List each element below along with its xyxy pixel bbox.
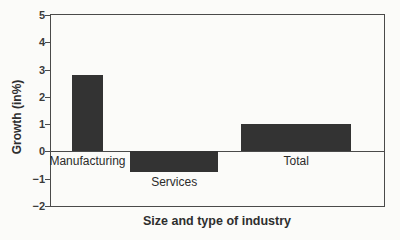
plot-area: 543210−1−2ManufacturingServicesTotal — [50, 14, 385, 207]
y-tick-label: 1 — [21, 118, 45, 130]
y-tick-mark — [45, 151, 51, 152]
bar-label-total: Total — [284, 155, 309, 168]
bar-label-services: Services — [151, 176, 197, 189]
bar-label-manufacturing: Manufacturing — [49, 155, 125, 168]
y-tick-label: −2 — [21, 200, 45, 212]
y-tick-label: 3 — [21, 64, 45, 76]
bar-services — [130, 151, 219, 171]
y-tick-mark — [45, 179, 51, 180]
y-tick-label: 4 — [21, 36, 45, 48]
bar-total — [241, 124, 351, 151]
y-tick-label: 2 — [21, 91, 45, 103]
y-tick-mark — [45, 15, 51, 16]
y-tick-mark — [45, 42, 51, 43]
y-tick-mark — [45, 70, 51, 71]
y-tick-mark — [45, 97, 51, 98]
x-axis-title: Size and type of industry — [50, 214, 384, 228]
bar-manufacturing — [72, 75, 103, 151]
bar-chart-figure: Growth (in%) 543210−1−2ManufacturingServ… — [0, 0, 400, 240]
y-tick-label: 5 — [21, 9, 45, 21]
y-tick-mark — [45, 206, 51, 207]
y-tick-mark — [45, 124, 51, 125]
y-tick-label: −1 — [21, 173, 45, 185]
y-tick-label: 0 — [21, 145, 45, 157]
